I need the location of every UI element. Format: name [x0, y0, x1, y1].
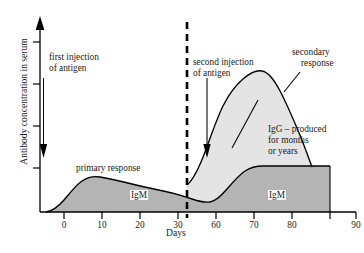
igg-note-line2: for months [268, 135, 309, 145]
primary-response-label: primary response [76, 163, 140, 173]
x-axis-ticks [64, 212, 356, 219]
x-tick-90: 90 [348, 220, 364, 230]
second-injection-arrow [203, 78, 210, 158]
secondary-response-label-line1: secondary [292, 47, 330, 57]
igm-label-primary: IgM [130, 190, 148, 200]
x-tick-20: 20 [132, 220, 148, 230]
x-tick-80: 80 [284, 220, 300, 230]
x-tick-10: 10 [94, 220, 110, 230]
x-tick-30: 30 [170, 220, 186, 230]
y-axis-title: Antibody concentration in serum [18, 27, 29, 177]
y-axis-arrowhead [36, 16, 45, 30]
igg-note-line3: or years [268, 146, 298, 156]
antibody-response-figure: Antibody concentration in serum Days 0 1… [0, 0, 364, 253]
first-injection-label-line2: of antigen [49, 63, 86, 73]
second-injection-label-line1: second injection [193, 57, 254, 67]
first-injection-label-line1: first injection [49, 52, 99, 62]
secondary-response-leader [284, 72, 300, 92]
y-axis-ticks [33, 42, 40, 168]
second-injection-label-line2: of antigen [193, 68, 230, 78]
x-tick-70: 70 [246, 220, 262, 230]
igg-note-line1: IgG – produced [268, 124, 326, 134]
x-tick-0: 0 [56, 220, 72, 230]
igm-label-secondary: IgM [268, 190, 286, 200]
secondary-response-label-line2: response [301, 58, 334, 68]
x-tick-60: 60 [208, 220, 224, 230]
first-injection-arrow [40, 78, 47, 158]
